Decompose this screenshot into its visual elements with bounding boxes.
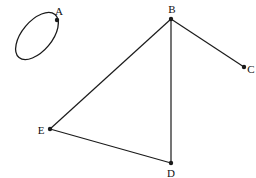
edge-e-d xyxy=(50,129,171,163)
edge-b-e xyxy=(50,19,171,129)
node-a-dot xyxy=(55,18,59,22)
node-c-dot xyxy=(242,65,246,69)
node-e-dot xyxy=(48,127,52,131)
node-e-label: E xyxy=(38,125,45,136)
edge-b-c xyxy=(171,19,244,67)
graph-drawing xyxy=(0,0,256,177)
node-c-label: C xyxy=(247,64,254,75)
graph-diagram: ABCDE xyxy=(0,0,256,177)
node-d-label: D xyxy=(167,168,175,178)
node-d-dot xyxy=(169,161,173,165)
node-b-dot xyxy=(169,17,173,21)
node-a-label: A xyxy=(55,6,63,17)
node-b-label: B xyxy=(168,4,175,15)
